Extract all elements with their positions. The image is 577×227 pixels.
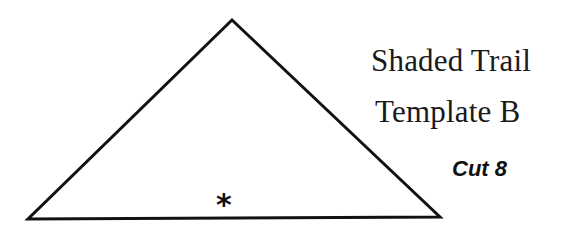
template-title-line-1: Shaded Trail [371, 45, 531, 76]
cut-count-label: Cut 8 [452, 158, 507, 180]
template-canvas: * Shaded Trail Template B Cut 8 [0, 0, 577, 227]
grain-marker-icon: * [216, 190, 232, 220]
template-title-line-2: Template B [375, 96, 520, 127]
